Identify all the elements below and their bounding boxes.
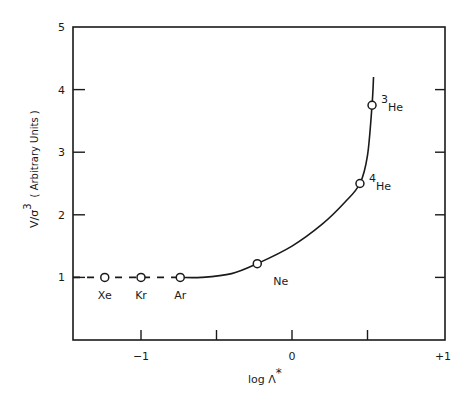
- point-label-4he: 4He: [369, 172, 391, 193]
- y-tick-label: 1: [58, 271, 65, 284]
- data-point-xe: [101, 273, 109, 281]
- y-tick-label: 4: [58, 84, 65, 97]
- point-label-ar: Ar: [174, 289, 187, 302]
- x-tick-label: −1: [133, 350, 149, 363]
- data-point-4he: [356, 180, 364, 188]
- x-tick-label: 0: [289, 350, 296, 363]
- svg-text:V/σ3( Arbitrary Units ): V/σ3( Arbitrary Units ): [22, 110, 41, 228]
- y-tick-label: 5: [58, 21, 65, 34]
- data-point-ne: [253, 260, 261, 268]
- data-point-ar: [176, 273, 184, 281]
- x-tick-label: +1: [435, 350, 451, 363]
- y-axis-label: V/σ3( Arbitrary Units ): [22, 110, 41, 228]
- y-tick-label: 3: [58, 146, 65, 159]
- x-axis-label: log Λ*: [248, 366, 282, 386]
- point-label-3he: 3He: [381, 93, 403, 114]
- point-label-kr: Kr: [135, 289, 147, 302]
- y-tick-label: 2: [58, 209, 65, 222]
- chart-canvas: 12345−10+1log Λ*V/σ3( Arbitrary Units )X…: [0, 0, 470, 403]
- theory-curve: [180, 77, 373, 278]
- data-point-3he: [368, 101, 376, 109]
- point-label-xe: Xe: [98, 289, 112, 302]
- data-point-kr: [137, 273, 145, 281]
- point-label-ne: Ne: [273, 275, 288, 288]
